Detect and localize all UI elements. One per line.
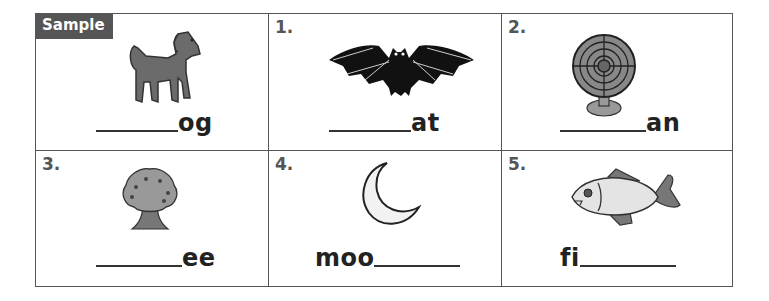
- answer-blank[interactable]: [580, 265, 676, 267]
- word-sample: og: [96, 109, 213, 137]
- fish-icon: [570, 167, 684, 227]
- worksheet-grid: Sample og 1. at 2.: [35, 13, 733, 287]
- bat-icon: [329, 40, 474, 100]
- item-number: 5.: [508, 154, 526, 174]
- answer-blank[interactable]: [374, 265, 460, 267]
- word-3: ee: [96, 244, 216, 272]
- cell-3: 3. ee: [36, 151, 269, 286]
- word-2: an: [560, 109, 680, 137]
- answer-blank[interactable]: [560, 130, 646, 132]
- answer-blank[interactable]: [96, 130, 178, 132]
- item-number: 2.: [508, 17, 526, 37]
- cell-sample: Sample og: [36, 14, 269, 151]
- dog-icon: [122, 26, 202, 108]
- cell-4: 4. moo: [269, 151, 502, 286]
- word-4: moo: [315, 244, 460, 272]
- sample-label: Sample: [35, 13, 113, 39]
- word-1: at: [329, 109, 440, 137]
- word-5: fi: [560, 244, 676, 272]
- cell-2: 2. an: [502, 14, 733, 151]
- item-number: 1.: [275, 17, 293, 37]
- cell-5: 5. fi: [502, 151, 733, 286]
- answer-blank[interactable]: [96, 265, 182, 267]
- item-number: 3.: [42, 154, 60, 174]
- fan-icon: [570, 34, 638, 118]
- cell-1: 1. at: [269, 14, 502, 151]
- moon-icon: [355, 161, 421, 229]
- answer-blank[interactable]: [329, 130, 411, 132]
- item-number: 4.: [275, 154, 293, 174]
- tree-icon: [120, 167, 180, 233]
